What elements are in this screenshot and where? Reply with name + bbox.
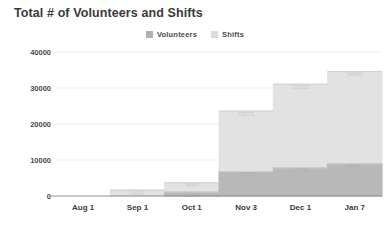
- x-axis-tick-label: Dec 1: [290, 203, 312, 212]
- data-point-label: 1632: [131, 190, 145, 196]
- data-point-label: 8963: [348, 163, 362, 169]
- data-point-label: 7823: [294, 167, 308, 173]
- x-axis-tick-label: Aug 1: [72, 203, 95, 212]
- y-axis-tick-label: 20000: [30, 120, 51, 129]
- x-axis-tick-label: Sep 1: [127, 203, 149, 212]
- data-point-label: 23571: [238, 111, 255, 117]
- data-point-label: 34561: [346, 71, 363, 77]
- data-point-label: 6781: [239, 171, 253, 177]
- data-point-label: 31055: [292, 84, 309, 90]
- data-point-label: 1100: [185, 192, 199, 198]
- y-axis-tick-label: 40000: [30, 48, 51, 57]
- y-axis-tick-label: 10000: [30, 156, 51, 165]
- data-point-label: 3654: [185, 182, 199, 188]
- chart-container: Total # of Volunteers and Shifts Volunte…: [0, 0, 390, 240]
- plot-area: 0100002000030000400001632365423571310553…: [0, 0, 390, 240]
- chart-plot-svg: 0100002000030000400001632365423571310553…: [0, 0, 390, 240]
- x-axis-tick-label: Oct 1: [182, 203, 203, 212]
- x-axis-tick-label: Nov 3: [235, 203, 257, 212]
- y-axis-tick-label: 30000: [30, 84, 51, 93]
- x-axis-tick-label: Jan 7: [345, 203, 366, 212]
